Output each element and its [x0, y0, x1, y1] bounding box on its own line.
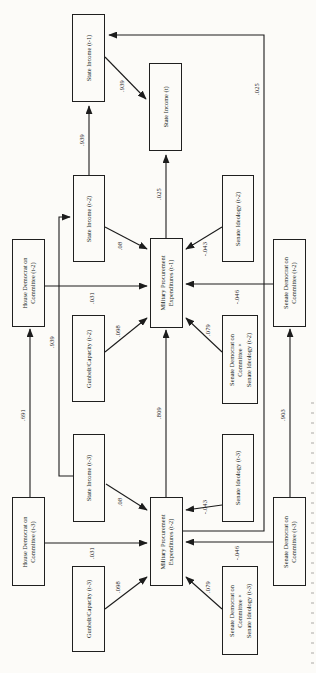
coef-mpe-t1-to-state-income-t: .025	[155, 188, 162, 200]
coef-senate-democrat-t2-to-mpe-t1: -.046	[233, 290, 240, 304]
coef-house-democrat-t3-to-t2: .691	[19, 409, 26, 421]
coef-senate-interaction-t3-to-mpe-t2: .079	[204, 581, 211, 593]
arrow-state-income-t1-to-t	[105, 57, 146, 99]
box-label: Senate Democrat on Committee (t-2)	[281, 242, 298, 324]
box-senate-interaction-t2: Senate Democrat on Committee × Senate Id…	[222, 315, 258, 404]
box-gunbelt-t2: Gunbelt/Capacity (t-2)	[72, 315, 105, 402]
box-label: Senate Democrat on Committee × Senate Id…	[228, 319, 253, 401]
coef-senate-interaction-t2-to-mpe-t1: .079	[204, 324, 211, 336]
box-state-income-t1: State Income (t-1)	[72, 14, 105, 102]
box-label: State Income (t-2)	[85, 178, 93, 260]
coef-mpe-t2-to-state-income-t1: .025	[253, 83, 260, 95]
box-senate-ideology-t3: Senate Ideology (t-3)	[222, 434, 254, 522]
box-mpe-t2: Military Procurement Expenditures (t-2)	[150, 497, 183, 586]
box-label: Military Procurement Expenditures (t-1)	[158, 242, 175, 324]
box-senate-democrat-t3: Senate Democrat on Committee (t-3)	[273, 497, 306, 586]
coef-house-democrat-t3-to-mpe-t2: .031	[88, 547, 95, 559]
coef-senate-democrat-t3-to-t2: .903	[279, 409, 286, 421]
box-gunbelt-t3: Gunbelt/Capacity (t-3)	[72, 566, 105, 652]
box-senate-interaction-t3: Senate Democrat on Committee × Senate Id…	[222, 566, 258, 655]
box-house-democrat-t3: House Democrat on Committee (t-3)	[12, 497, 45, 586]
coef-state-income-t2-to-mpe-t1: .08	[116, 242, 123, 251]
box-label: Military Procurement Expenditures (t-2)	[158, 501, 175, 583]
box-label: State Income (t)	[161, 66, 169, 148]
cropped-caption-edge	[311, 402, 314, 664]
box-label: House Democrat on Committee (t-2)	[20, 242, 37, 324]
box-senate-democrat-t2: Senate Democrat on Committee (t-2)	[273, 239, 306, 327]
coef-state-income-t1-to-t: .939	[118, 80, 125, 92]
box-state-income-t3: State Income (t-3)	[73, 434, 105, 522]
figure-canvas: State Income (t-1) State Income (t) Stat…	[0, 0, 316, 673]
box-label: Gunbelt/Capacity (t-3)	[84, 568, 92, 650]
coef-house-democrat-t2-to-mpe-t1: .031	[88, 292, 95, 304]
coef-senate-ideology-t3-to-mpe-t2: -.043	[201, 500, 208, 514]
coef-senate-democrat-t3-to-mpe-t2: -.046	[233, 546, 240, 560]
coef-senate-ideology-t2-to-mpe-t1: -.043	[201, 242, 208, 256]
arrow-state-income-t3-to-t2	[59, 217, 73, 476]
box-state-income-t: State Income (t)	[149, 63, 182, 151]
box-label: Gunbelt/Capacity (t-2)	[84, 318, 92, 400]
arrow-gunbelt-t2-to-mpe-t1	[105, 318, 147, 352]
box-state-income-t2: State Income (t-2)	[73, 175, 105, 262]
box-label: State Income (t-1)	[84, 17, 92, 99]
coef-state-income-t3-to-mpe-t2: .08	[116, 498, 123, 507]
coef-gunbelt-t3-to-mpe-t2: .098	[114, 581, 121, 593]
arrow-state-income-t2-to-mpe-t1	[105, 227, 147, 249]
coef-state-income-t2-to-t1: .939	[78, 134, 85, 146]
coef-state-income-t3-to-t2: .939	[48, 336, 55, 348]
box-house-democrat-t2: House Democrat on Committee (t-2)	[12, 239, 45, 327]
coef-gunbelt-t2-to-mpe-t1: .098	[114, 325, 121, 337]
coef-mpe-t2-to-mpe-t1: .809	[155, 407, 162, 419]
box-label: House Democrat on Committee (t-3)	[20, 501, 37, 583]
box-label: State Income (t-3)	[85, 437, 93, 519]
arrow-gunbelt-t3-to-mpe-t2	[105, 577, 147, 609]
box-label: Senate Democrat on Committee × Senate Id…	[228, 570, 253, 652]
box-senate-ideology-t2: Senate Ideology (t-2)	[222, 175, 254, 262]
arrow-state-income-t3-to-mpe-t2	[106, 484, 147, 510]
box-label: Senate Ideology (t-3)	[234, 437, 242, 519]
box-label: Senate Ideology (t-2)	[234, 178, 242, 260]
box-mpe-t1: Military Procurement Expenditures (t-1)	[150, 238, 183, 328]
box-label: Senate Democrat on Committee (t-3)	[281, 501, 298, 583]
